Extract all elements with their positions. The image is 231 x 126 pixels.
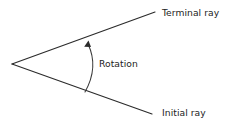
terminal-ray-label: Terminal ray bbox=[162, 8, 219, 17]
initial-ray-label: Initial ray bbox=[162, 108, 206, 117]
rotation-arc bbox=[85, 44, 93, 92]
rotation-label: Rotation bbox=[99, 59, 138, 68]
terminal-ray-line bbox=[12, 12, 155, 64]
rotation-angle-diagram: Terminal ray Initial ray Rotation bbox=[0, 0, 231, 126]
initial-ray-line bbox=[12, 64, 152, 114]
rotation-arrow-head-icon bbox=[84, 40, 92, 48]
